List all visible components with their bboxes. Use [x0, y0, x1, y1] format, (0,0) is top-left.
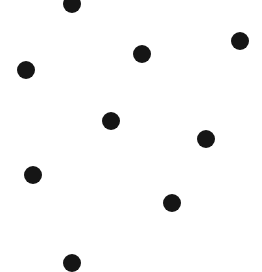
dot-4 — [17, 61, 35, 79]
dot-7 — [24, 166, 42, 184]
dot-1 — [63, 0, 81, 13]
dot-8 — [163, 194, 181, 212]
dot-3 — [231, 32, 249, 50]
dot-2 — [133, 45, 151, 63]
dot-6 — [197, 130, 215, 148]
dot-9 — [63, 254, 81, 272]
dot-5 — [102, 112, 120, 130]
